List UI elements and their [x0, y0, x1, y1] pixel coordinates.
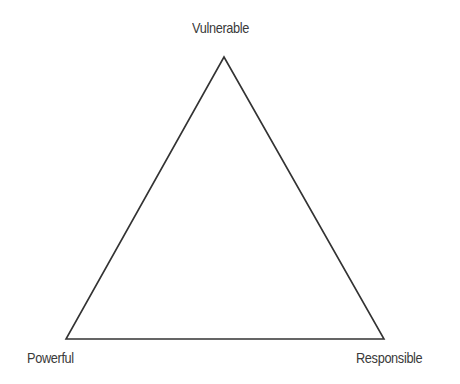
triangle-diagram: Vulnerable Powerful Responsible: [0, 0, 460, 384]
vertex-label-powerful: Powerful: [27, 350, 74, 366]
triangle-outline: [66, 57, 384, 339]
triangle-shape: [0, 0, 460, 384]
vertex-label-vulnerable: Vulnerable: [192, 20, 249, 36]
vertex-label-responsible: Responsible: [356, 350, 422, 366]
